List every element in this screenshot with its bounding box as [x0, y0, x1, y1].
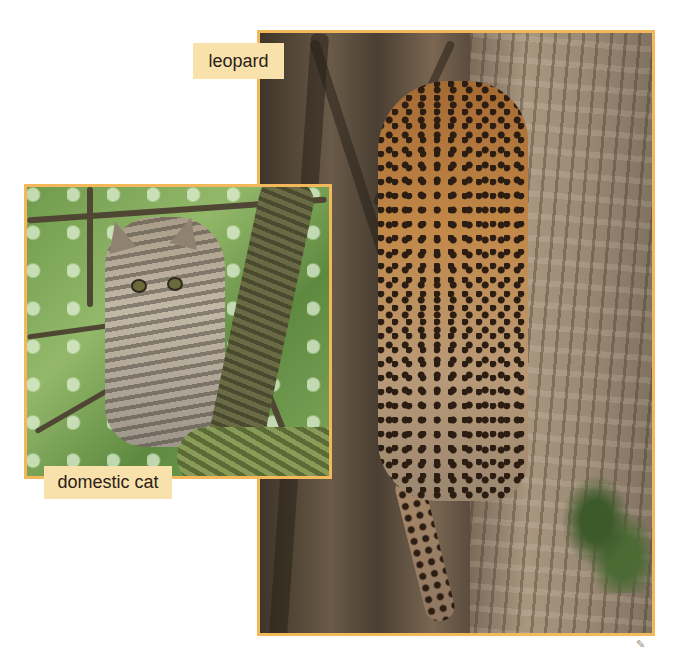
kitten-eye — [131, 279, 147, 293]
kitten — [105, 217, 225, 447]
leopard — [378, 81, 528, 501]
mossy-branch — [177, 427, 332, 479]
domestic-cat-photo — [24, 184, 332, 479]
kitten-eye — [167, 277, 183, 291]
leopard-caption: leopard — [193, 43, 284, 79]
leaves — [560, 473, 650, 593]
domestic-cat-caption: domestic cat — [44, 466, 172, 499]
page-mark-icon: ✎ — [636, 638, 645, 651]
branch — [87, 187, 93, 307]
